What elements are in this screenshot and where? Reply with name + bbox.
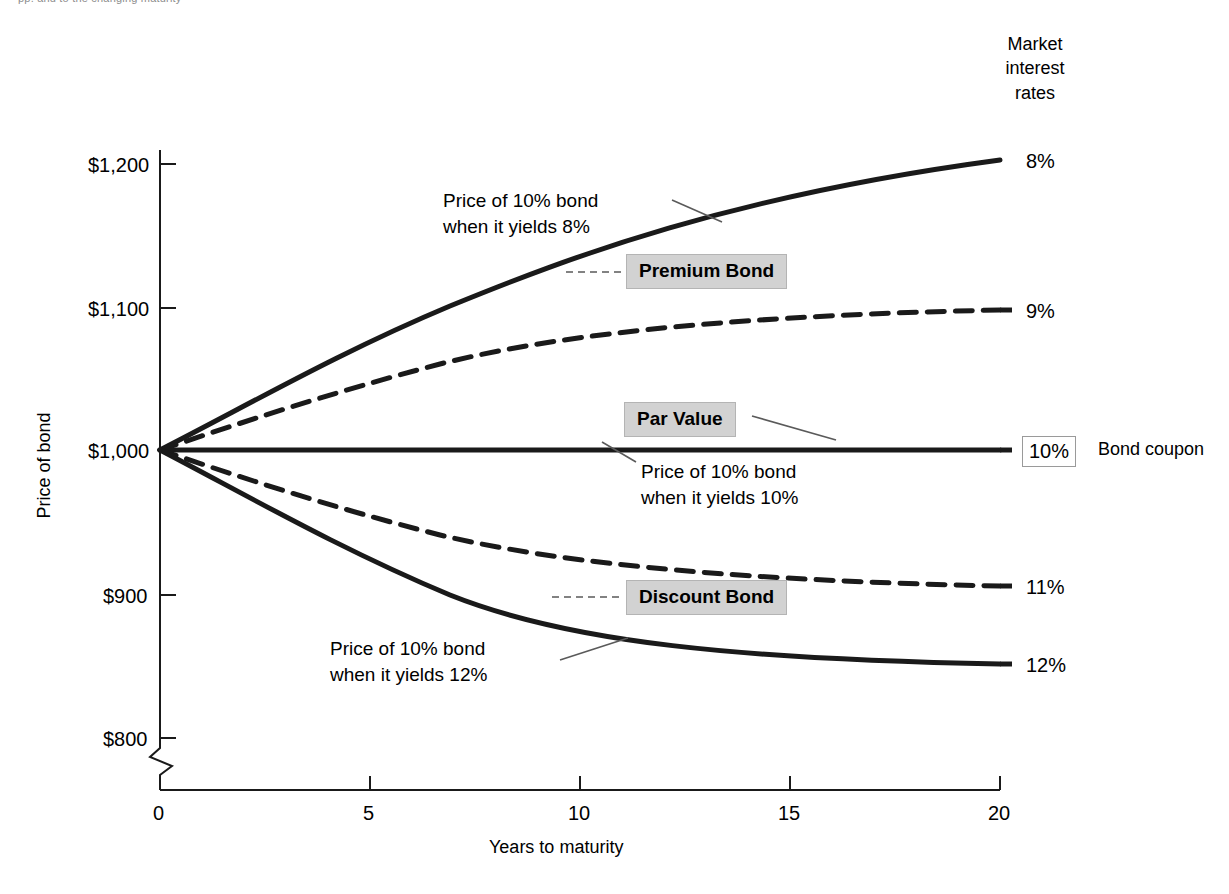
rate-label-11: 11%: [1026, 574, 1065, 600]
annotation-10-line-1: Price of 10% bond: [641, 459, 798, 485]
rate-label-8: 8%: [1026, 148, 1055, 174]
annotation-12-line-2: when it yields 12%: [330, 662, 487, 688]
x-tick-label-15: 15: [778, 800, 800, 826]
rate-stub-lines-group: [1000, 310, 1012, 664]
x-tick-label-20: 20: [988, 800, 1010, 826]
rate-label-9: 9%: [1026, 298, 1055, 324]
legend-header: Market interest rates: [975, 32, 1095, 105]
rate-label-10: 10%: [1022, 436, 1076, 467]
legend-header-line-3: rates: [975, 81, 1095, 105]
curve-9-percent: [160, 310, 1000, 450]
y-tick-label-1100: $1,100: [88, 296, 149, 322]
y-tick-label-1000: $1,000: [88, 438, 149, 464]
leader-par-value: [752, 416, 836, 440]
annotation-12-percent: Price of 10% bond when it yields 12%: [330, 636, 487, 688]
bond-coupon-note: Bond coupon: [1098, 438, 1204, 462]
y-tick-label-800: $800: [103, 726, 148, 752]
y-tick-label-1200: $1,200: [88, 152, 149, 178]
annotation-8-line-1: Price of 10% bond: [443, 188, 598, 214]
legend-header-line-2: interest: [975, 56, 1095, 80]
annotation-10-percent: Price of 10% bond when it yields 10%: [641, 459, 798, 511]
tag-discount-bond: Discount Bond: [626, 580, 787, 615]
legend-header-line-1: Market: [975, 32, 1095, 56]
rate-label-12: 12%: [1026, 652, 1066, 678]
x-tick-label-5: 5: [363, 800, 374, 826]
annotation-12-line-1: Price of 10% bond: [330, 636, 487, 662]
curve-12-percent: [160, 450, 1000, 664]
annotation-10-line-2: when it yields 10%: [641, 485, 798, 511]
x-tick-label-10: 10: [568, 800, 590, 826]
figure-canvas: pp. and to the changing maturity: [0, 0, 1229, 894]
y-tick-label-900: $900: [103, 583, 148, 609]
y-axis-title: Price of bond: [34, 386, 55, 546]
tag-par-value: Par Value: [624, 402, 736, 437]
annotation-8-line-2: when it yields 8%: [443, 214, 598, 240]
x-axis-title: Years to maturity: [489, 836, 623, 860]
tag-premium-bond: Premium Bond: [626, 254, 787, 289]
leader-annot-12: [560, 638, 628, 660]
axes-group: [150, 150, 1000, 790]
x-tick-label-0: 0: [153, 800, 164, 826]
annotation-8-percent: Price of 10% bond when it yields 8%: [443, 188, 598, 240]
